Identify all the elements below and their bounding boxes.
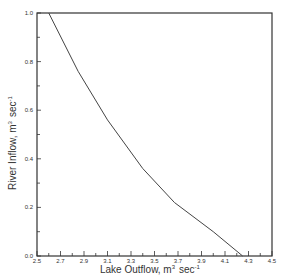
- x-tick-label: 4.3: [244, 258, 253, 264]
- y-tick-label: 0.8: [25, 59, 34, 65]
- x-tick-label: 2.5: [33, 258, 42, 264]
- x-tick-label: 4.5: [268, 258, 277, 264]
- x-tick-label: 4.1: [221, 258, 230, 264]
- y-tick-label: 0.4: [25, 156, 34, 162]
- y-tick-label: 0.0: [25, 253, 34, 259]
- plot-frame: [37, 13, 272, 256]
- x-axis-ticks: 2.52.72.93.13.33.53.73.94.14.34.5: [33, 251, 277, 264]
- y-tick-label: 0.6: [25, 107, 34, 113]
- y-axis-label: River Inflow, m3sec-1: [7, 96, 18, 190]
- y-tick-label: 0.2: [25, 204, 34, 210]
- y-axis-ticks: 0.00.20.40.60.81.0: [25, 10, 41, 259]
- x-tick-label: 2.9: [80, 258, 89, 264]
- x-axis-label: Lake Outflow, m3sec-1: [100, 264, 201, 275]
- line-chart: 2.52.72.93.13.33.53.73.94.14.34.5 0.00.2…: [0, 0, 283, 278]
- x-tick-label: 2.7: [56, 258, 65, 264]
- y-tick-label: 1.0: [25, 10, 34, 16]
- data-line: [49, 13, 243, 256]
